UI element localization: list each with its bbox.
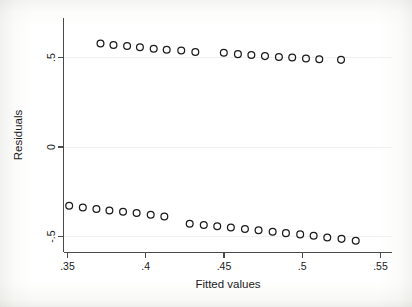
x-axis-ticklabel: .55 (373, 260, 388, 272)
data-point-marker (324, 234, 331, 241)
data-point-marker (161, 213, 168, 220)
data-point-marker (316, 56, 323, 63)
data-point-marker (220, 49, 227, 56)
data-point-marker (214, 223, 221, 230)
data-point-marker (106, 207, 113, 214)
data-point-marker (262, 53, 269, 60)
x-axis-ticklabel: .45 (217, 260, 232, 272)
data-point-marker (93, 206, 100, 213)
x-axis-ticklabel: .5 (298, 260, 307, 272)
data-point-marker (186, 220, 193, 227)
data-point-marker (66, 202, 73, 209)
x-axis-ticks-group (68, 253, 381, 259)
y-axis-ticklabel: -.5 (45, 230, 57, 242)
y-axis-ticklabels-group: .50-.5 (45, 53, 57, 243)
x-axis-ticklabel: .4 (141, 260, 150, 272)
data-point-marker (352, 237, 359, 244)
data-point-marker (283, 230, 290, 237)
data-point-marker (133, 210, 140, 217)
data-point-marker (163, 46, 170, 53)
y-axis-ticklabel: 0 (45, 144, 57, 150)
data-point-marker (178, 47, 185, 54)
x-axis-title: Fitted values (195, 278, 260, 290)
y-axis-title: Residuals (12, 110, 24, 161)
data-point-marker (255, 227, 262, 234)
data-point-marker (120, 208, 127, 215)
positive-residual-points-group (97, 40, 344, 63)
residual-plot-figure: .50-.5 .35.4.45.5.55 Fitted values Resid… (0, 0, 412, 307)
data-point-marker (242, 226, 249, 233)
data-point-marker (97, 40, 104, 47)
data-point-marker (269, 228, 276, 235)
data-point-marker (79, 204, 86, 211)
data-point-marker (150, 45, 157, 52)
data-point-marker (310, 232, 317, 239)
y-axis-ticks-group (58, 58, 64, 237)
data-point-marker (227, 224, 234, 231)
data-point-marker (124, 43, 131, 50)
negative-residual-points-group (66, 202, 359, 244)
data-point-marker (303, 55, 310, 62)
data-point-marker (147, 211, 154, 218)
x-axis-ticklabels-group: .35.4.45.5.55 (60, 260, 388, 272)
x-axis-ticklabel: .35 (60, 260, 75, 272)
data-point-marker (192, 49, 199, 56)
data-point-marker (235, 51, 242, 58)
data-point-marker (137, 44, 144, 51)
data-point-marker (200, 222, 207, 229)
data-point-marker (110, 42, 117, 49)
y-axis-ticklabel: .5 (45, 53, 57, 62)
scatter-plot-canvas: .50-.5 .35.4.45.5.55 Fitted values Resid… (0, 0, 412, 307)
